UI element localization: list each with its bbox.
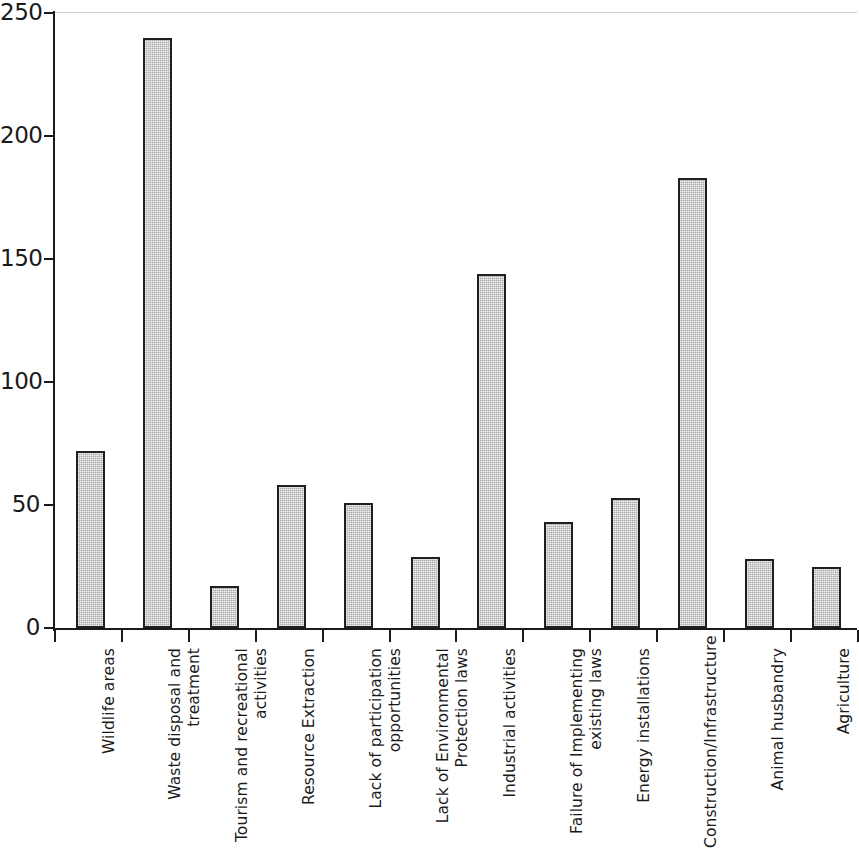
y-axis-tick-label: 100 [0, 370, 40, 393]
bar [611, 498, 640, 628]
y-axis-tick [44, 135, 55, 137]
y-axis-tick [44, 381, 55, 383]
x-axis-category-label: Animal husbandry [769, 648, 788, 848]
y-axis-tick-label: 150 [0, 247, 40, 270]
x-axis-category-label: Construction/Infrastructure [702, 648, 721, 848]
x-axis-tick [188, 630, 190, 642]
y-axis-tick [44, 504, 55, 506]
x-axis-tick [723, 630, 725, 642]
y-axis-tick [44, 627, 55, 629]
x-axis-tick [255, 630, 257, 642]
y-axis-tick [44, 258, 55, 260]
bar [812, 567, 841, 629]
bar [76, 451, 105, 628]
x-axis-tick [589, 630, 591, 642]
bar [344, 503, 373, 628]
x-axis-tick [857, 630, 859, 642]
x-axis-category-label: Energy installations [635, 648, 654, 848]
bar [210, 586, 239, 628]
y-axis-tick-label: 50 [0, 493, 40, 516]
x-axis-tick [455, 630, 457, 642]
bar [277, 485, 306, 628]
bar [411, 557, 440, 628]
x-axis-tick [322, 630, 324, 642]
x-axis-category-label: Tourism and recreational activities [233, 648, 271, 848]
bar [477, 274, 506, 628]
top-border-rule [53, 12, 857, 13]
y-axis-tick-label: 200 [0, 124, 40, 147]
x-axis-tick [522, 630, 524, 642]
x-axis-category-label: Resource Extraction [300, 648, 319, 848]
x-axis-tick [54, 630, 56, 642]
x-axis-tick [389, 630, 391, 642]
x-axis-category-label: Agriculture [835, 648, 854, 848]
x-axis-category-label: Lack of participation opportunities [367, 648, 405, 848]
y-axis-tick [44, 12, 55, 14]
y-axis-line [53, 11, 55, 631]
x-axis-category-label: Lack of Environmental Protection laws [434, 648, 472, 848]
x-axis-tick [790, 630, 792, 642]
x-axis-tick [656, 630, 658, 642]
x-axis-tick [121, 630, 123, 642]
bar [544, 522, 573, 628]
bar [745, 559, 774, 628]
y-axis-tick-label: 0 [0, 616, 40, 639]
x-axis-category-label: Industrial activities [501, 648, 520, 848]
x-axis-category-label: Waste disposal and treatment [166, 648, 204, 848]
x-axis-category-label: Failure of Implementing existing laws [568, 648, 606, 848]
bar [143, 38, 172, 628]
x-axis-category-label: Wildlife areas [100, 648, 119, 848]
y-axis-tick-label: 250 [0, 1, 40, 24]
bar [678, 178, 707, 628]
